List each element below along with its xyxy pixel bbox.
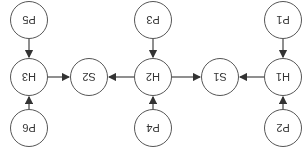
node-h1: H1 (264, 58, 302, 96)
node-label: P5 (22, 14, 35, 26)
node-s1: S1 (201, 58, 239, 96)
node-label: S2 (82, 71, 95, 83)
node-p5: P5 (10, 1, 48, 39)
node-label: H3 (22, 71, 36, 83)
node-p2: P2 (264, 109, 302, 147)
node-p3: P3 (134, 1, 172, 39)
node-h3: H3 (10, 58, 48, 96)
node-p4: P4 (134, 109, 172, 147)
node-label: P1 (276, 14, 289, 26)
node-label: P3 (146, 14, 159, 26)
node-label: H2 (146, 71, 160, 83)
node-p1: P1 (264, 1, 302, 39)
node-label: H1 (276, 71, 290, 83)
node-s2: S2 (70, 58, 108, 96)
node-label: S1 (213, 71, 226, 83)
node-label: P4 (146, 122, 159, 134)
node-label: P6 (22, 122, 35, 134)
node-h2: H2 (134, 58, 172, 96)
node-p6: P6 (10, 109, 48, 147)
network-diagram: P1P2H1S1P3P4H2S2P5P6H3 (0, 0, 306, 155)
node-label: P2 (276, 122, 289, 134)
